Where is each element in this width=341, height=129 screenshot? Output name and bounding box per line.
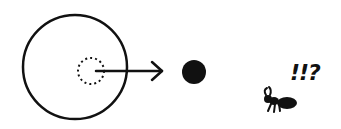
outer-circle	[23, 15, 127, 119]
black-dot	[182, 60, 206, 84]
arrow-icon	[96, 62, 162, 80]
ant-icon	[264, 87, 297, 112]
exclamation-annotation: !!?	[290, 60, 320, 85]
